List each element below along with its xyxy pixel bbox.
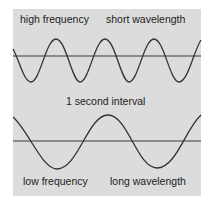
long-wavelength-label: long wavelength — [110, 175, 186, 187]
short-wavelength-label: short wavelength — [106, 13, 185, 25]
low-frequency-label: low frequency — [23, 175, 88, 187]
interval-label: 1 second interval — [66, 95, 145, 107]
high-frequency-wave — [13, 39, 201, 82]
high-frequency-label: high frequency — [20, 13, 89, 25]
